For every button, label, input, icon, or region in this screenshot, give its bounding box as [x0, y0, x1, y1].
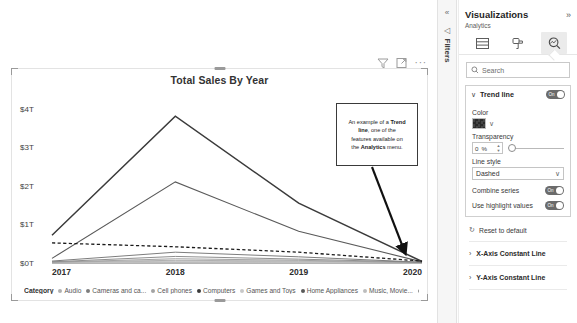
svg-text:$2T: $2T: [20, 182, 34, 191]
expand-filters-icon[interactable]: ◁: [441, 26, 453, 36]
transparency-control-row: 0 % ▲▼: [472, 142, 564, 154]
magnifier-icon: [547, 36, 562, 51]
combine-series-toggle[interactable]: On: [545, 186, 564, 195]
toggle-knob: [556, 202, 563, 209]
toggle-state-label: On: [549, 92, 555, 97]
reset-icon: ↻: [469, 226, 475, 234]
chart-legend: Category Audio Cameras and ca... Cell ph…: [24, 287, 419, 294]
annotation-arrow: [330, 160, 430, 270]
trend-line-toggle[interactable]: On: [546, 90, 565, 99]
more-options-icon[interactable]: ···: [415, 59, 427, 67]
stepper-arrows-icon[interactable]: ▲▼: [497, 144, 501, 153]
transparency-unit: %: [481, 145, 487, 152]
svg-text:$0T: $0T: [20, 259, 34, 268]
chevron-down-icon[interactable]: ∨: [471, 91, 476, 99]
color-swatch[interactable]: [472, 118, 486, 129]
svg-text:2017: 2017: [52, 267, 71, 277]
tab-analytics[interactable]: [541, 32, 567, 54]
search-input[interactable]: Search: [466, 62, 570, 78]
color-picker-row[interactable]: ∨: [472, 118, 564, 129]
legend-marker-icon: [418, 289, 419, 293]
trend-line-annotation-callout: An example of a Trend line, one of the f…: [336, 103, 418, 166]
slider-thumb[interactable]: [508, 144, 516, 152]
use-highlight-values-row: Use highlight values On: [472, 201, 564, 210]
legend-item-label: Home Appliances: [307, 287, 358, 294]
color-label: Color: [472, 109, 564, 116]
legend-item[interactable]: Cameras and ca...: [86, 287, 146, 294]
legend-marker-icon: [363, 289, 367, 293]
transparency-stepper[interactable]: 0 % ▲▼: [472, 142, 503, 154]
use-highlight-values-toggle[interactable]: On: [545, 201, 564, 210]
pane-tab-strip: [459, 29, 577, 55]
legend-item-label: Audio: [64, 287, 81, 294]
y-axis-constant-line-label: Y-Axis Constant Line: [476, 274, 545, 281]
chevron-right-icon[interactable]: ›: [469, 274, 471, 281]
tab-fields[interactable]: [469, 32, 495, 54]
legend-item-label: Computers: [203, 287, 235, 294]
chevron-down-icon[interactable]: ∨: [555, 170, 560, 178]
tab-format[interactable]: [505, 32, 531, 54]
legend-item[interactable]: Home Appliances: [301, 287, 358, 294]
line-style-select[interactable]: Dashed ∨: [472, 167, 564, 180]
chart-title: Total Sales By Year: [12, 74, 427, 86]
pane-subtitle: Analytics: [459, 22, 577, 29]
reset-to-default-label: Reset to default: [479, 227, 527, 234]
legend-item[interactable]: Computers: [197, 287, 235, 294]
legend-item[interactable]: TV and Video: [418, 287, 419, 294]
collapse-pane-icon[interactable]: «: [441, 8, 453, 18]
combine-series-label: Combine series: [472, 187, 519, 194]
transparency-label: Transparency: [472, 133, 564, 140]
legend-title: Category: [24, 287, 53, 294]
line-style-value: Dashed: [476, 170, 499, 177]
trend-line-card-header[interactable]: ∨ Trend line On: [466, 86, 570, 103]
paint-roller-icon: [511, 36, 526, 51]
search-row: Search: [459, 55, 577, 83]
pane-title: Visualizations: [465, 9, 528, 20]
legend-marker-icon: [301, 289, 305, 293]
report-canvas: ··· Total Sales By Year $0T$1T$2T$3T$4T …: [0, 0, 437, 323]
collapse-pane-chevron-icon[interactable]: »: [566, 10, 571, 20]
toggle-state-label: On: [548, 188, 554, 193]
filters-pane-label: Filters: [443, 38, 452, 62]
legend-item-label: Games and Toys: [246, 287, 295, 294]
legend-marker-icon: [58, 289, 62, 293]
slider-track: [514, 148, 564, 149]
use-highlight-values-label: Use highlight values: [472, 202, 533, 209]
legend-item[interactable]: Audio: [58, 287, 81, 294]
legend-marker-icon: [151, 289, 155, 293]
svg-text:2018: 2018: [166, 267, 185, 277]
svg-text:$3T: $3T: [20, 143, 34, 152]
legend-item[interactable]: Music, Movie...: [363, 287, 413, 294]
y-axis-constant-line-accordion[interactable]: › Y-Axis Constant Line: [469, 266, 567, 290]
visualizations-pane-header: Visualizations »: [459, 0, 577, 22]
transparency-slider[interactable]: [508, 143, 564, 153]
trend-line-card: ∨ Trend line On Color ∨ Transparency 0: [465, 85, 571, 217]
legend-item-label: Cell phones: [157, 287, 192, 294]
svg-text:$1T: $1T: [20, 220, 34, 229]
legend-marker-icon: [240, 289, 244, 293]
legend-item-label: Music, Movie...: [369, 287, 413, 294]
combine-series-row: Combine series On: [472, 186, 564, 195]
trend-line-card-body: Color ∨ Transparency 0 % ▲▼: [466, 103, 570, 216]
callout-text: An example of a Trend line, one of the f…: [348, 118, 405, 152]
power-bi-report-view: ··· Total Sales By Year $0T$1T$2T$3T$4T …: [0, 0, 577, 323]
transparency-value: 0: [475, 145, 478, 152]
reset-to-default-button[interactable]: ↻ Reset to default: [469, 226, 567, 242]
toggle-state-label: On: [548, 203, 554, 208]
chevron-down-icon[interactable]: ∨: [489, 120, 494, 128]
legend-marker-icon: [197, 289, 201, 293]
svg-text:2019: 2019: [289, 267, 308, 277]
svg-text:$4T: $4T: [20, 105, 34, 114]
toggle-knob: [557, 91, 564, 98]
x-axis-constant-line-accordion[interactable]: › X-Axis Constant Line: [469, 242, 567, 266]
legend-item[interactable]: Cell phones: [151, 287, 192, 294]
legend-item[interactable]: Games and Toys: [240, 287, 295, 294]
legend-marker-icon: [86, 289, 90, 293]
line-style-label: Line style: [472, 158, 564, 165]
chevron-right-icon[interactable]: ›: [469, 250, 471, 257]
filters-pane-collapsed[interactable]: « ◁ Filters: [437, 0, 457, 323]
y-axis-tick-labels: $0T$1T$2T$3T$4T: [20, 105, 34, 268]
toggle-knob: [556, 187, 563, 194]
resize-handle-top[interactable]: [214, 67, 225, 70]
trend-line-label: Trend line: [480, 90, 514, 99]
